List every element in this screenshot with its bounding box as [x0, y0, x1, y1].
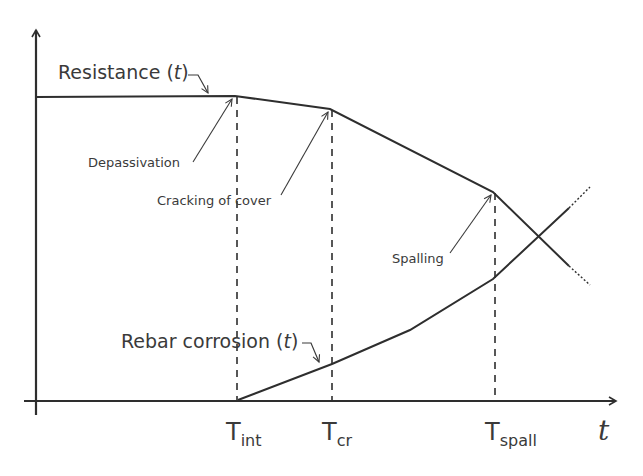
- resistance-label-prefix: Resistance (: [58, 61, 174, 83]
- tick-t-spall: Tspall: [485, 418, 537, 450]
- depassivation-pointer: [193, 99, 232, 162]
- tick-t-cr-sub: cr: [337, 431, 352, 450]
- x-axis-label: t: [598, 414, 609, 447]
- spalling-label: Spalling: [392, 251, 444, 266]
- resistance-pointer: [188, 75, 208, 93]
- tick-t-int-sub: int: [241, 431, 262, 450]
- cracking-pointer: [281, 112, 328, 195]
- tick-t-spall-base: T: [485, 418, 500, 446]
- rebar-pointer: [302, 343, 319, 362]
- resistance-label: Resistance (t): [58, 61, 189, 83]
- tick-t-cr: Tcr: [322, 418, 352, 450]
- tick-t-spall-sub: spall: [500, 431, 537, 450]
- resistance-label-suffix: ): [181, 61, 188, 83]
- rebar-label-prefix: Rebar corrosion (: [121, 330, 283, 352]
- rebar-label-var: t: [283, 330, 290, 352]
- spalling-pointer: [450, 195, 491, 253]
- tick-t-int: Tint: [226, 418, 262, 450]
- rebar-label-suffix: ): [291, 330, 298, 352]
- depassivation-label: Depassivation: [88, 155, 180, 170]
- rebar-corrosion-label: Rebar corrosion (t): [121, 330, 298, 352]
- tick-t-int-base: T: [226, 418, 241, 446]
- tick-t-cr-base: T: [322, 418, 337, 446]
- cracking-of-cover-label: Cracking of cover: [157, 193, 271, 208]
- resistance-curve: [36, 96, 590, 285]
- rebar-corrosion-curve: [238, 187, 590, 400]
